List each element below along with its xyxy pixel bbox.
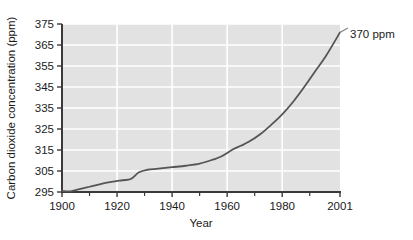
- x-tick-label: 1900: [49, 200, 75, 212]
- y-axis-title: Carbon dioxide concentration (ppm): [5, 16, 17, 199]
- x-tick-label: 1940: [159, 200, 185, 212]
- co2-line-chart-figure: 295305315325335345355365375 190019201940…: [0, 0, 413, 240]
- chart-canvas: 295305315325335345355365375 190019201940…: [0, 0, 413, 240]
- y-tick-label: 335: [35, 102, 54, 114]
- x-axis-title: Year: [189, 217, 212, 229]
- y-tick-label: 355: [35, 60, 54, 72]
- x-axis-ticks: 190019201940196019802001: [49, 192, 353, 212]
- y-tick-label: 305: [35, 165, 54, 177]
- y-tick-label: 345: [35, 81, 54, 93]
- x-tick-label: 2001: [327, 200, 353, 212]
- x-tick-label: 1980: [269, 200, 295, 212]
- endpoint-annotation-label: 370 ppm: [350, 28, 395, 40]
- annotation-leader-line: [340, 28, 348, 32]
- y-tick-label: 365: [35, 39, 54, 51]
- x-tick-label: 1960: [214, 200, 240, 212]
- x-tick-label: 1920: [104, 200, 130, 212]
- y-tick-label: 295: [35, 186, 54, 198]
- y-tick-label: 375: [35, 18, 54, 30]
- y-tick-label: 325: [35, 123, 54, 135]
- y-axis-ticks: 295305315325335345355365375: [35, 18, 62, 198]
- y-tick-label: 315: [35, 144, 54, 156]
